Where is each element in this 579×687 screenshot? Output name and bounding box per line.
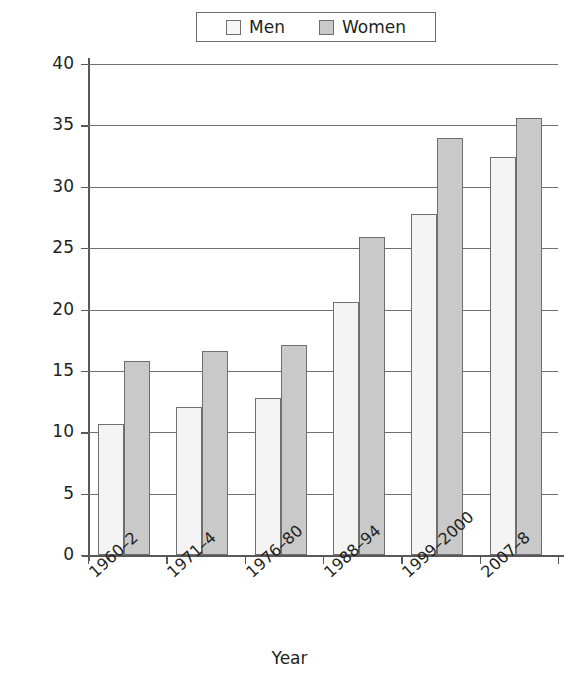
bar-women-5 <box>516 118 542 555</box>
y-tick-mark <box>81 310 88 311</box>
bar-men-3 <box>333 302 359 555</box>
y-tick-mark <box>81 494 88 495</box>
plot-area <box>88 64 558 555</box>
legend-swatch-men-icon <box>226 20 241 35</box>
bar-men-2 <box>255 398 281 555</box>
bar-men-1 <box>176 407 202 556</box>
gridline <box>88 248 558 249</box>
y-tick-mark <box>81 371 88 372</box>
y-tick-mark <box>81 555 88 556</box>
gridline <box>88 125 558 126</box>
obesity-bar-chart: Men Women 0510152025303540 1960–21971–41… <box>0 0 579 687</box>
gridline <box>88 494 558 495</box>
y-tick-mark <box>81 125 88 126</box>
gridline <box>88 432 558 433</box>
y-tick-label: 0 <box>42 546 74 563</box>
legend-label-men: Men <box>249 19 285 36</box>
y-tick-label: 15 <box>42 362 74 379</box>
y-tick-label: 5 <box>42 485 74 502</box>
x-tick-mark <box>558 555 559 564</box>
bar-women-1 <box>202 351 228 555</box>
y-tick-label: 10 <box>42 423 74 440</box>
bar-women-3 <box>359 237 385 555</box>
legend-entry-women: Women <box>319 19 406 36</box>
y-tick-label: 40 <box>42 55 74 72</box>
y-tick-label: 20 <box>42 301 74 318</box>
y-tick-label: 30 <box>42 178 74 195</box>
bar-men-5 <box>490 157 516 555</box>
legend-entry-men: Men <box>226 19 285 36</box>
x-axis-title: Year <box>0 650 579 667</box>
y-tick-mark <box>81 64 88 65</box>
y-tick-mark <box>81 187 88 188</box>
bar-men-4 <box>411 214 437 555</box>
legend-swatch-women-icon <box>319 20 334 35</box>
bar-women-4 <box>437 138 463 555</box>
y-tick-label: 25 <box>42 239 74 256</box>
y-tick-mark <box>81 248 88 249</box>
bar-women-0 <box>124 361 150 555</box>
y-tick-mark <box>81 432 88 433</box>
y-axis-ticks: 0510152025303540 <box>28 0 74 687</box>
gridline <box>88 371 558 372</box>
y-tick-label: 35 <box>42 116 74 133</box>
legend-label-women: Women <box>342 19 406 36</box>
gridline <box>88 64 558 65</box>
gridline <box>88 310 558 311</box>
chart-legend: Men Women <box>196 12 436 42</box>
gridline <box>88 187 558 188</box>
